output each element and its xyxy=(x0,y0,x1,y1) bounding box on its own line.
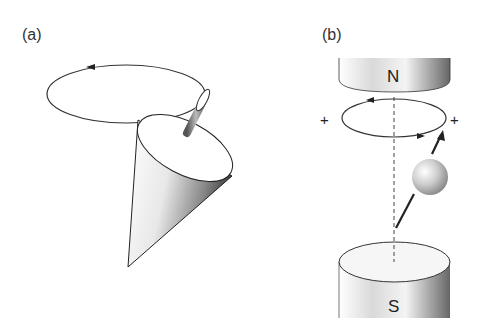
plus-left: + xyxy=(320,111,329,128)
panel-b-diagram: N + + S xyxy=(320,58,459,318)
spin-stick xyxy=(396,194,414,228)
figure: (a) (b) xyxy=(0,0,481,334)
precession-orbit xyxy=(47,65,205,123)
north-label: N xyxy=(387,67,399,86)
spinning-particle xyxy=(412,159,448,195)
plus-right: + xyxy=(450,111,459,128)
south-label: S xyxy=(388,297,399,316)
panel-a-diagram xyxy=(47,64,243,267)
